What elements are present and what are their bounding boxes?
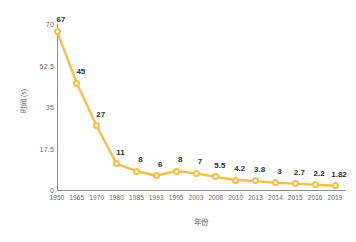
x-tick-label: 2016 — [308, 194, 323, 201]
data-point-label: 3.8 — [254, 165, 265, 174]
x-tick-label: 2013 — [248, 194, 263, 201]
data-point-label: 4.2 — [234, 164, 245, 173]
data-point-marker — [193, 170, 200, 177]
x-axis-ticks: 1950196519701980198519931995200320082010… — [57, 194, 345, 206]
y-tick-label: 0 — [50, 187, 54, 194]
data-point-label: 8 — [138, 155, 142, 164]
y-axis-ticks: 017.53552.570 — [28, 24, 54, 190]
series-polyline — [57, 31, 335, 186]
data-point-marker — [332, 182, 339, 189]
x-tick-label: 1993 — [149, 194, 164, 201]
data-point-label: 2.2 — [314, 169, 325, 178]
x-tick-label: 2003 — [189, 194, 204, 201]
data-point-label: 2.7 — [294, 168, 305, 177]
data-point-label: 1.82 — [331, 170, 347, 179]
x-tick-label: 2019 — [328, 194, 343, 201]
line-chart: 时间 (s) 017.53552.570 6745271186875.54.23… — [0, 0, 356, 242]
y-tick-label: 52.5 — [40, 62, 54, 69]
x-tick-label: 2010 — [228, 194, 243, 201]
x-axis-title: 年份 — [57, 216, 345, 227]
data-point-marker — [292, 180, 299, 187]
x-axis-line — [57, 190, 346, 191]
data-point-label: 67 — [57, 15, 66, 24]
data-point-marker — [232, 177, 239, 184]
plot-area: 6745271186875.54.23.832.72.21.82 — [57, 24, 345, 190]
data-point-label: 45 — [76, 67, 85, 76]
data-point-marker — [153, 172, 160, 179]
data-point-label: 7 — [198, 157, 202, 166]
data-point-label: 6 — [158, 160, 162, 169]
x-tick-label: 1965 — [69, 194, 84, 201]
data-point-label: 5.5 — [214, 161, 225, 170]
data-point-label: 27 — [96, 110, 105, 119]
data-point-marker — [54, 28, 61, 35]
data-point-label: 3 — [277, 167, 281, 176]
x-tick-label: 1970 — [89, 194, 104, 201]
x-tick-label: 2015 — [288, 194, 303, 201]
data-point-marker — [312, 181, 319, 188]
x-tick-label: 1995 — [169, 194, 184, 201]
x-tick-label: 2008 — [208, 194, 223, 201]
data-point-label: 11 — [116, 148, 124, 157]
data-point-marker — [173, 168, 180, 175]
y-tick-label: 17.5 — [40, 145, 54, 152]
x-tick-label: 1950 — [50, 194, 65, 201]
x-tick-label: 1980 — [109, 194, 124, 201]
data-point-label: 8 — [178, 155, 182, 164]
y-tick-label: 35 — [46, 104, 54, 111]
y-tick-label: 70 — [46, 21, 54, 28]
y-axis-title: 时间 (s) — [18, 73, 28, 129]
x-tick-label: 1985 — [129, 194, 144, 201]
x-tick-label: 2014 — [268, 194, 283, 201]
data-point-marker — [133, 168, 140, 175]
